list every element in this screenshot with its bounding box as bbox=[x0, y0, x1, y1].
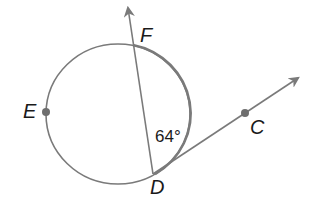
angle-label: 64° bbox=[155, 128, 181, 145]
point-E bbox=[42, 108, 50, 116]
label-D: D bbox=[150, 177, 164, 197]
label-C: C bbox=[250, 117, 264, 137]
geometry-figure bbox=[0, 0, 314, 199]
ray-DC bbox=[153, 78, 298, 174]
diagram-canvas: F E C D 64° bbox=[0, 0, 314, 199]
label-F: F bbox=[140, 25, 152, 45]
point-C bbox=[241, 109, 249, 117]
label-E: E bbox=[23, 101, 36, 121]
